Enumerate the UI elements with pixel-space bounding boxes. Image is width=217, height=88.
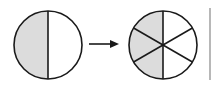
fraction-diagram xyxy=(0,0,217,88)
left-circle-halves xyxy=(14,11,82,79)
right-circle-sixths xyxy=(129,11,197,79)
right-arrow-icon xyxy=(89,40,119,48)
right-shaded-half xyxy=(129,11,163,79)
left-shaded-half xyxy=(14,11,48,79)
